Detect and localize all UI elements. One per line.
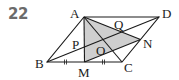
label-d: D	[162, 6, 171, 21]
parallelogram-figure: A D B C M N O P Q	[0, 0, 179, 80]
label-q: Q	[114, 17, 124, 32]
label-a: A	[70, 6, 80, 21]
label-n: N	[143, 36, 153, 51]
label-p: P	[72, 37, 79, 52]
label-b: B	[35, 56, 44, 71]
label-m: M	[78, 65, 90, 80]
segment-am	[84, 17, 85, 62]
label-c: C	[124, 60, 133, 75]
label-o: O	[96, 43, 105, 58]
shaded-triangle-amn	[84, 17, 141, 62]
